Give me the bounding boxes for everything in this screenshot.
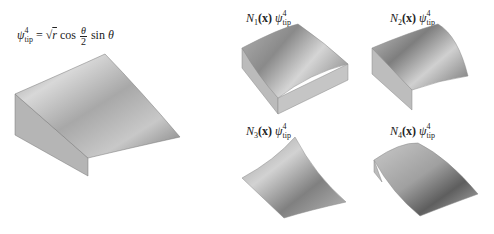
superscript: 4 xyxy=(282,9,286,18)
cos-function: cos xyxy=(60,28,76,42)
equals-sign: = xyxy=(36,28,43,42)
panel-1-surface-plot xyxy=(240,18,370,118)
fraction-denominator: 2 xyxy=(80,37,87,47)
subscript: tip xyxy=(24,35,32,44)
panel-4-surface-plot xyxy=(370,138,494,234)
theta-variable: θ xyxy=(108,28,114,42)
superscript: 4 xyxy=(426,9,430,18)
argument: (x) xyxy=(402,124,416,138)
superscript: 4 xyxy=(24,26,28,35)
r-variable: r xyxy=(52,28,57,42)
panel-3-surface-plot xyxy=(240,130,370,234)
main-formula-label: ψ4tip = √r cos θ2 sin θ xyxy=(17,26,114,47)
main-surface-plot xyxy=(0,50,200,200)
fraction: θ2 xyxy=(80,26,87,47)
n-symbol: N xyxy=(390,124,398,138)
panel-2-surface-plot xyxy=(370,18,494,118)
sin-function: sin xyxy=(91,28,105,42)
panel-label-4: N4(x) ψ4tip xyxy=(390,125,435,137)
superscript: 4 xyxy=(426,122,430,131)
